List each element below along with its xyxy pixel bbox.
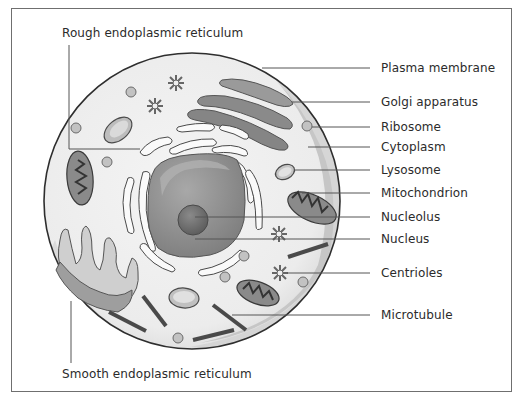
nucleus (148, 154, 245, 258)
label-plasma-membrane: Plasma membrane (381, 61, 495, 75)
label-nucleolus: Nucleolus (381, 210, 440, 224)
label-rough-er: Rough endoplasmic reticulum (62, 26, 243, 40)
label-ribosome: Ribosome (381, 120, 441, 134)
label-microtubule: Microtubule (381, 308, 453, 322)
label-golgi-apparatus: Golgi apparatus (381, 95, 478, 109)
label-nucleus: Nucleus (381, 232, 429, 246)
nucleolus (178, 205, 208, 235)
label-lysosome: Lysosome (381, 163, 441, 177)
label-mitochondrion: Mitochondrion (381, 186, 468, 200)
label-cytoplasm: Cytoplasm (381, 140, 446, 154)
label-smooth-er: Smooth endoplasmic reticulum (62, 367, 252, 381)
label-centrioles: Centrioles (381, 266, 443, 280)
